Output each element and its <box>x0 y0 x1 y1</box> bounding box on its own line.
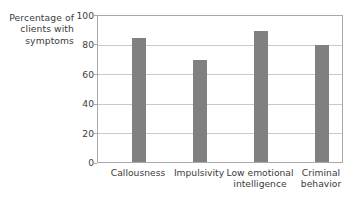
y-tick-mark-0 <box>92 163 97 164</box>
y-axis-title-line-1: Percentage of <box>2 12 74 23</box>
plot-area <box>97 15 343 163</box>
x-tick-label-criminal-behavior-line-2: behavior <box>282 178 358 189</box>
y-tick-label-100: 100 <box>70 11 94 20</box>
bar-low-emotional-intelligence <box>254 31 268 162</box>
y-tick-label-60: 60 <box>70 70 94 79</box>
bar-chart-figure: Percentage of clients with symptoms 100 … <box>0 0 358 203</box>
y-axis-title: Percentage of clients with symptoms <box>2 12 74 46</box>
bar-callousness <box>132 38 146 162</box>
bar-impulsivity <box>193 60 207 162</box>
x-tick-label-criminal-behavior-line-1: Criminal <box>282 167 358 178</box>
bar-criminal-behavior <box>315 45 329 162</box>
y-tick-label-0: 0 <box>70 158 94 167</box>
y-tick-label-40: 40 <box>70 99 94 108</box>
y-axis-title-line-2: clients with <box>2 23 74 34</box>
y-axis-title-line-3: symptoms <box>2 35 74 46</box>
y-tick-label-20: 20 <box>70 129 94 138</box>
y-tick-label-80: 80 <box>70 40 94 49</box>
x-tick-label-criminal-behavior: Criminal behavior <box>282 167 358 189</box>
